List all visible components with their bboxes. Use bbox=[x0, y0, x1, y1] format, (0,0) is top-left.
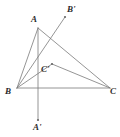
point-label-a: A bbox=[31, 15, 37, 24]
point-label-cprime: C' bbox=[41, 65, 50, 74]
point-label-b: B bbox=[5, 87, 11, 96]
ray-B-to-Bprime bbox=[17, 17, 65, 88]
side-AC bbox=[38, 28, 110, 88]
point-label-c: C bbox=[110, 87, 116, 96]
point-label-bprime: B' bbox=[67, 5, 76, 14]
point-marker-bprime bbox=[64, 16, 66, 18]
point-marker-aprime bbox=[37, 119, 39, 121]
point-label-aprime: A' bbox=[33, 123, 42, 132]
point-marker-cprime bbox=[51, 63, 53, 65]
segment-Cprime-to-C bbox=[52, 64, 110, 88]
side-AB bbox=[17, 28, 38, 88]
figure-canvas bbox=[0, 0, 120, 137]
geometry-figure: ABCA'B'C' bbox=[0, 0, 120, 137]
segments-group bbox=[17, 17, 110, 120]
